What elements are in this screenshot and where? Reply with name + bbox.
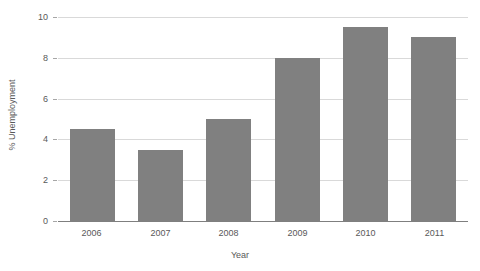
bar-2011[interactable] bbox=[411, 37, 456, 221]
y-tick-mark-8 bbox=[53, 58, 57, 59]
y-tick-label-8: 8 bbox=[43, 54, 48, 63]
bar-2009[interactable] bbox=[275, 58, 320, 221]
y-tick-label-6: 6 bbox=[43, 95, 48, 104]
bar-2006[interactable] bbox=[70, 129, 115, 221]
y-tick-mark-4 bbox=[53, 139, 57, 140]
y-tick-mark-2 bbox=[53, 180, 57, 181]
bar-2007[interactable] bbox=[138, 150, 183, 221]
bars-layer bbox=[58, 17, 468, 221]
y-tick-label-2: 2 bbox=[43, 176, 48, 185]
y-axis-title: % Unemployment bbox=[7, 55, 17, 175]
x-tick-label-2006: 2006 bbox=[57, 228, 126, 238]
x-tick-label-2007: 2007 bbox=[126, 228, 195, 238]
y-tick-label-10: 10 bbox=[38, 13, 48, 22]
y-tick-label-0: 0 bbox=[43, 217, 48, 226]
y-tick-mark-10 bbox=[53, 17, 57, 18]
x-tick-label-2010: 2010 bbox=[331, 228, 400, 238]
bar-2010[interactable] bbox=[343, 27, 388, 221]
x-axis-line bbox=[58, 221, 468, 222]
y-tick-label-4: 4 bbox=[43, 135, 48, 144]
y-tick-mark-6 bbox=[53, 99, 57, 100]
x-tick-label-2009: 2009 bbox=[263, 228, 332, 238]
x-tick-label-2011: 2011 bbox=[400, 228, 469, 238]
x-tick-label-2008: 2008 bbox=[194, 228, 263, 238]
y-tick-mark-0 bbox=[53, 221, 57, 222]
bar-chart-figure: 10 8 6 4 2 0 2006 2007 2008 2009 2010 20… bbox=[0, 0, 480, 271]
x-axis-title: Year bbox=[0, 250, 480, 260]
bar-2008[interactable] bbox=[206, 119, 251, 221]
